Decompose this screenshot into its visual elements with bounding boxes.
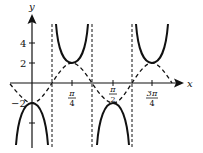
x-tick-3pi-4: 3π 4 (146, 89, 158, 108)
branch-up-2 (136, 24, 168, 63)
x-tick-pi-4: π 4 (68, 89, 76, 108)
axes (10, 20, 178, 148)
y-tick-2: 2 (20, 58, 26, 69)
x-tick-pi-2: π 2 (109, 85, 117, 104)
asymptotes (52, 24, 132, 148)
trig-graph: y x 4 2 −2 π 4 π 2 3π 4 (0, 0, 203, 153)
y-tick-neg2: −2 (11, 98, 26, 109)
svg-text:π: π (68, 89, 75, 98)
svg-text:3π: 3π (147, 89, 158, 98)
branch-up-1 (56, 24, 88, 63)
y-tick-4: 4 (20, 38, 26, 49)
svg-text:4: 4 (149, 99, 154, 108)
svg-text:4: 4 (69, 99, 74, 108)
y-axis-label: y (28, 1, 35, 12)
branch-down-2 (97, 103, 129, 145)
x-axis-label: x (187, 78, 193, 89)
svg-text:2: 2 (110, 95, 115, 104)
svg-text:π: π (109, 85, 116, 94)
